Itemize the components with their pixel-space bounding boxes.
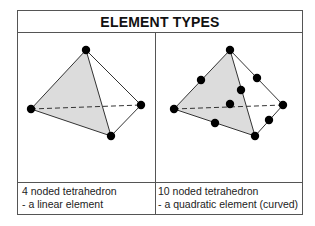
tetrahedra-figure	[0, 0, 315, 226]
node-dot	[107, 132, 115, 140]
midside-node-dot	[265, 116, 273, 124]
linear-tetrahedron-diagram	[27, 46, 145, 140]
quadratic-tetrahedron-diagram	[170, 46, 287, 140]
edge	[111, 105, 141, 136]
node-dot	[137, 101, 145, 109]
node-dot	[82, 46, 90, 54]
corner-node-dot	[226, 46, 234, 54]
corner-node-dot	[170, 105, 178, 113]
corner-node-dot	[251, 132, 259, 140]
midside-node-dot	[197, 76, 205, 84]
node-dot	[27, 105, 35, 113]
midside-node-dot	[226, 100, 234, 108]
midside-node-dot	[237, 86, 245, 94]
midside-node-dot	[253, 74, 261, 82]
corner-node-dot	[279, 101, 287, 109]
midside-node-dot	[211, 119, 219, 127]
